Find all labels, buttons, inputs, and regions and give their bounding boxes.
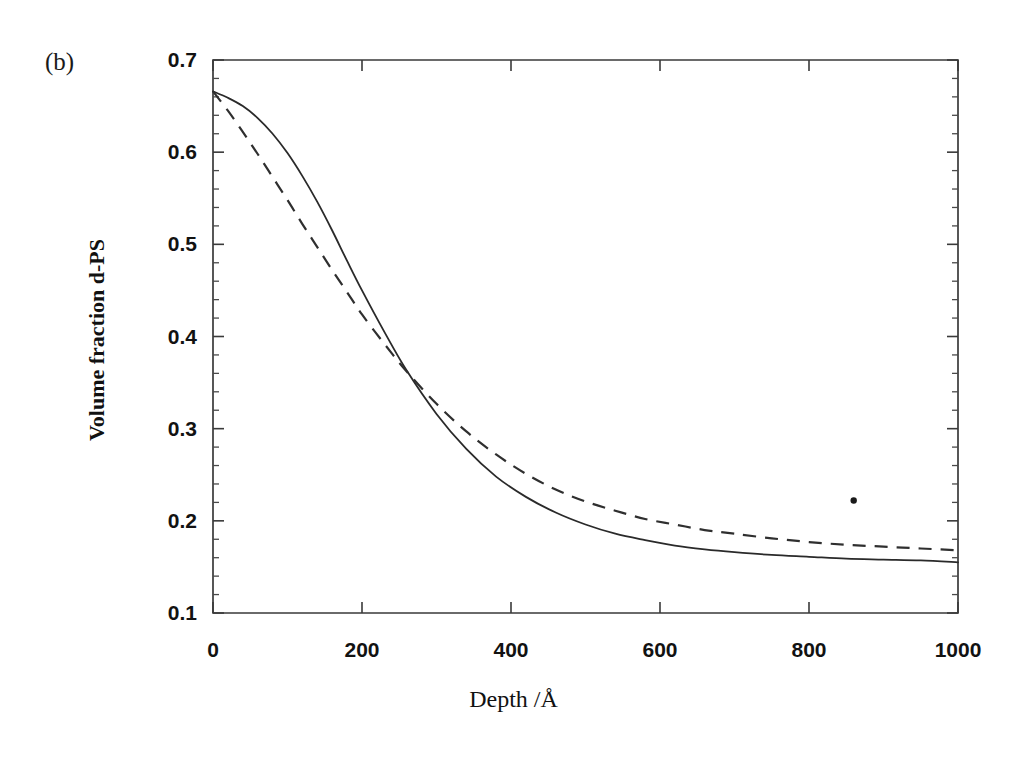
plot-area: 0.70.60.50.40.30.20.102004006008001000: [0, 0, 1027, 759]
scan-speck: [851, 497, 857, 503]
y-tick-label: 0.7: [168, 48, 197, 71]
curve-dashed: [213, 91, 958, 550]
x-tick-label: 1000: [935, 638, 982, 661]
x-tick-label: 0: [207, 638, 219, 661]
y-tick-label: 0.3: [168, 417, 197, 440]
data-curves: [213, 91, 958, 562]
x-tick-label: 200: [344, 638, 379, 661]
figure-page: (b) Volume fraction d-PS 0.70.60.50.40.3…: [0, 0, 1027, 759]
axis-tick-labels: 0.70.60.50.40.30.20.102004006008001000: [168, 48, 982, 661]
axis-frame: [213, 60, 958, 613]
plot-frame: [213, 60, 958, 613]
y-tick-label: 0.2: [168, 509, 197, 532]
scan-artifacts: [851, 497, 857, 503]
y-tick-label: 0.4: [168, 325, 198, 348]
y-tick-label: 0.6: [168, 140, 197, 163]
x-tick-label: 400: [493, 638, 528, 661]
x-tick-label: 800: [791, 638, 826, 661]
y-tick-label: 0.5: [168, 232, 198, 255]
x-axis-title: Depth /Å: [0, 686, 1027, 713]
curve-solid: [213, 91, 958, 562]
y-tick-label: 0.1: [168, 601, 198, 624]
axis-ticks: [213, 60, 958, 613]
x-tick-label: 600: [642, 638, 677, 661]
